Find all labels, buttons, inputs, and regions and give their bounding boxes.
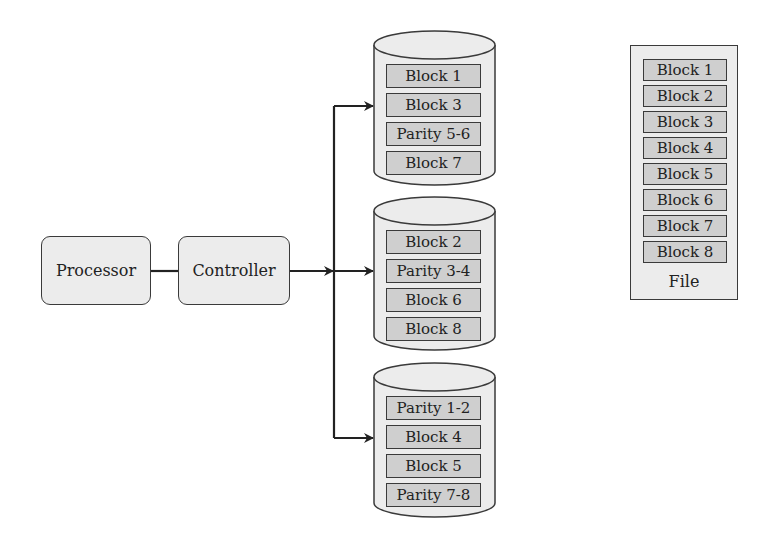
disk-1-block: Parity 5-6 <box>386 122 481 146</box>
file-label: File <box>631 272 737 291</box>
processor-label: Processor <box>56 261 136 280</box>
disk-2-block: Block 6 <box>386 288 481 312</box>
file-block: Block 6 <box>643 189 727 211</box>
controller-label: Controller <box>192 261 275 280</box>
file-block: Block 7 <box>643 215 727 237</box>
file-block: Block 4 <box>643 137 727 159</box>
disk-1-block: Block 7 <box>386 151 481 175</box>
disk-1-block: Block 1 <box>386 64 481 88</box>
file-block: Block 8 <box>643 241 727 263</box>
disk-3-block: Parity 1-2 <box>386 396 481 420</box>
disk-3-block: Parity 7-8 <box>386 483 481 507</box>
disk-3-block: Block 5 <box>386 454 481 478</box>
disk-3-block: Block 4 <box>386 425 481 449</box>
file-block: Block 5 <box>643 163 727 185</box>
raid-diagram: Processor Controller Block 1 Block 3 Par… <box>0 0 778 540</box>
file-block: Block 2 <box>643 85 727 107</box>
file-block: Block 3 <box>643 111 727 133</box>
disk-2-block: Block 8 <box>386 317 481 341</box>
controller-node: Controller <box>178 236 290 305</box>
file-container: Block 1 Block 2 Block 3 Block 4 Block 5 … <box>630 45 738 300</box>
processor-node: Processor <box>41 236 151 305</box>
disk-2-block: Block 2 <box>386 230 481 254</box>
disk-1-block: Block 3 <box>386 93 481 117</box>
file-block: Block 1 <box>643 59 727 81</box>
disk-2-block: Parity 3-4 <box>386 259 481 283</box>
